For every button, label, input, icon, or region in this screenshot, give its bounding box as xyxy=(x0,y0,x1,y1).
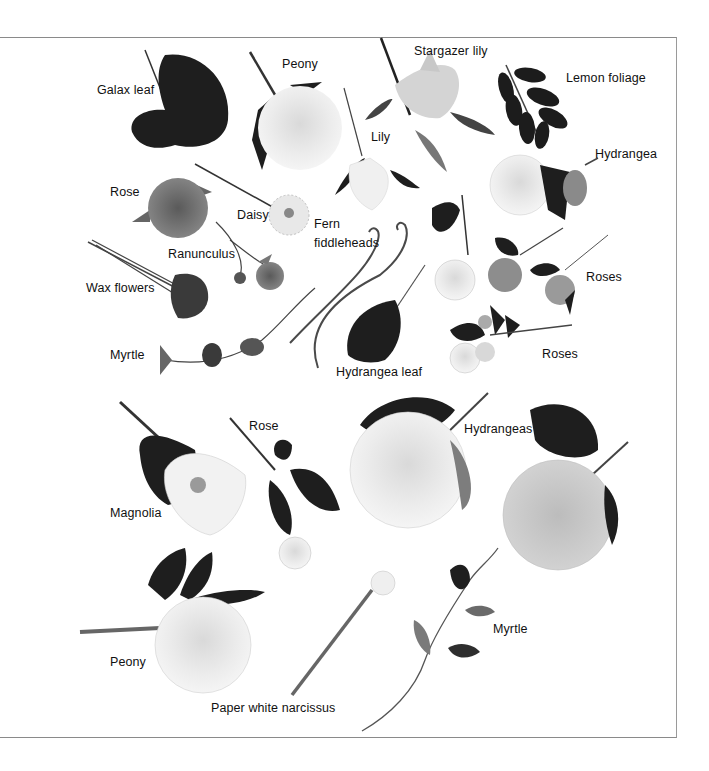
label-roses-right: Roses xyxy=(586,268,622,287)
flower-plate-illustration xyxy=(0,0,709,771)
hydrangea-top-icon xyxy=(490,155,598,220)
label-lemon-foliage: Lemon foliage xyxy=(566,69,646,88)
rose-top-icon xyxy=(132,178,212,238)
label-fern-fiddleheads-line2: fiddleheads xyxy=(314,234,379,253)
peony-bottom-icon xyxy=(80,548,265,693)
label-peony-bottom: Peony xyxy=(110,653,146,672)
paper-white-narcissus-icon xyxy=(292,571,395,695)
label-paper-white-narcissus: Paper white narcissus xyxy=(211,699,335,718)
label-fern-fiddleheads-line1: Fern xyxy=(314,215,340,234)
lemon-foliage-icon xyxy=(495,65,571,150)
label-rose-middle: Rose xyxy=(249,417,279,436)
rose-middle-icon xyxy=(230,418,340,569)
label-rose-top: Rose xyxy=(110,183,140,202)
label-stargazer-lily: Stargazer lily xyxy=(414,42,488,61)
label-myrtle-top: Myrtle xyxy=(110,346,145,365)
label-hydrangea: Hydrangea xyxy=(595,145,657,164)
label-hydrangeas: Hydrangeas xyxy=(464,420,532,439)
label-roses-bottom: Roses xyxy=(542,345,578,364)
label-wax-flowers: Wax flowers xyxy=(86,279,155,298)
label-peony-top: Peony xyxy=(282,55,318,74)
label-magnolia: Magnolia xyxy=(110,504,162,523)
label-daisy: Daisy xyxy=(237,206,269,225)
label-lily: Lily xyxy=(371,128,390,147)
hydrangea-leaf-icon xyxy=(347,265,425,362)
label-galax-leaf: Galax leaf xyxy=(97,81,154,100)
label-myrtle-bottom: Myrtle xyxy=(493,620,528,639)
label-hydrangea-leaf: Hydrangea leaf xyxy=(336,363,422,382)
label-ranunculus: Ranunculus xyxy=(168,245,235,264)
